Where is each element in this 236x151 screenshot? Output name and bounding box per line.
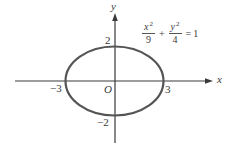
numerator-exponent: 2 [176, 20, 180, 28]
equals-sign: = [186, 28, 192, 39]
y-axis-arrow-icon [112, 13, 118, 21]
equation-rhs: 1 [193, 28, 198, 39]
x-axis-arrow-icon [205, 78, 213, 84]
numerator-exponent: 2 [149, 20, 153, 28]
ellipse-equation: x2 9 + y2 4 = 1 [140, 21, 198, 45]
fraction-y-denominator: 4 [173, 34, 178, 45]
plus-sign: + [159, 28, 165, 39]
fraction-y-numerator: y2 [169, 21, 182, 34]
x-axis-label: x [217, 74, 222, 85]
tick-label-y-neg: −2 [97, 117, 109, 128]
tick-label-x-pos: 3 [165, 84, 171, 95]
fraction-y: y2 4 [169, 21, 182, 45]
tick-label-x-neg: −3 [50, 83, 62, 94]
plot-canvas [0, 0, 236, 151]
y-axis-label: y [111, 1, 116, 12]
tick-label-y-pos: 2 [105, 35, 111, 46]
fraction-x: x2 9 [142, 21, 155, 45]
numerator-var: y [171, 21, 175, 32]
numerator-var: x [144, 21, 148, 32]
origin-label: O [104, 84, 112, 95]
fraction-x-denominator: 9 [146, 34, 151, 45]
fraction-x-numerator: x2 [142, 21, 155, 34]
